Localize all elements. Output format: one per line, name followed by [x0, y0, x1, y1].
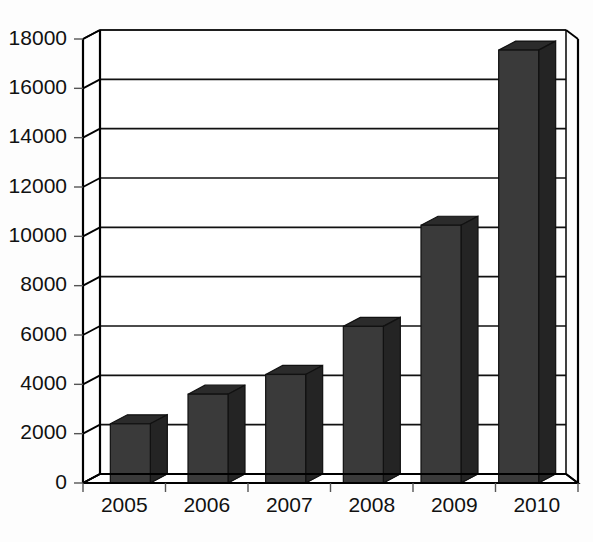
y-tick-label: 14000	[9, 124, 67, 147]
y-tick-label: 16000	[9, 75, 67, 98]
y-tick-label: 10000	[9, 223, 67, 246]
bar-2008	[343, 317, 400, 483]
x-axis-ticks	[83, 483, 578, 492]
y-tick-label: 8000	[20, 272, 67, 295]
x-tick-label: 2008	[348, 493, 395, 516]
y-tick-label: 18000	[9, 26, 67, 49]
bar-chart: 0200040006000800010000120001400016000180…	[0, 0, 593, 542]
y-tick-label: 12000	[9, 174, 67, 197]
bar-2005	[110, 415, 167, 483]
x-tick-label: 2007	[266, 493, 313, 516]
y-tick-label: 2000	[20, 420, 67, 443]
x-tick-label: 2006	[183, 493, 230, 516]
x-tick-label: 2009	[431, 493, 478, 516]
y-axis-ticks	[74, 39, 83, 483]
y-tick-label: 4000	[20, 371, 67, 394]
y-axis-tick-labels: 0200040006000800010000120001400016000180…	[9, 26, 67, 493]
y-tick-label: 0	[55, 470, 67, 493]
chart-canvas: 0200040006000800010000120001400016000180…	[0, 0, 593, 542]
x-tick-label: 2005	[101, 493, 148, 516]
bar-2010	[499, 41, 556, 483]
x-axis-tick-labels: 200520062007200820092010	[101, 493, 560, 516]
y-tick-label: 6000	[20, 322, 67, 345]
bar-2006	[188, 385, 245, 483]
bar-2007	[266, 365, 323, 483]
bar-2009	[421, 216, 478, 483]
x-tick-label: 2010	[513, 493, 560, 516]
